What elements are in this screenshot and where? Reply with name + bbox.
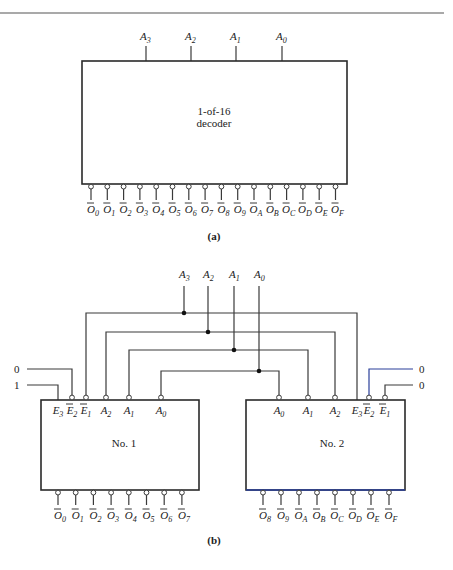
output-label-a-3: O3 xyxy=(136,203,148,218)
pin-label-a0: A0 xyxy=(275,30,287,45)
decoder16-inputs: A3 A2 A1 A0 xyxy=(139,30,287,61)
inversion-bubble xyxy=(333,490,338,495)
inversion-bubble xyxy=(138,184,143,189)
decoder-no1-outputs: O0O1O2O3O4O5O6O7 xyxy=(54,490,191,524)
inversion-bubble xyxy=(333,395,338,400)
output-label-a-12: OC xyxy=(282,203,296,218)
output-label-a-11: OB xyxy=(266,203,279,218)
bus-label-a1: A1 xyxy=(228,268,240,283)
output-label-no2-4: OC xyxy=(330,509,344,524)
inversion-bubble xyxy=(121,184,126,189)
wire-a3-enables xyxy=(86,313,357,400)
inversion-bubble xyxy=(73,490,78,495)
output-label-no1-3: O3 xyxy=(107,509,119,524)
wire-e2bar-no1 xyxy=(27,369,72,397)
decoder16-outputs: O0O1O2O3O4O5O6O7O8O9OAOBOCODOEOF xyxy=(87,184,344,218)
output-label-a-14: OE xyxy=(315,203,328,218)
output-label-no2-7: OF xyxy=(385,509,398,524)
wire-e2bar-no2 xyxy=(369,369,413,397)
inversion-bubble xyxy=(219,184,224,189)
inversion-bubble xyxy=(89,184,94,189)
output-label-no1-2: O2 xyxy=(89,509,101,524)
inversion-bubble xyxy=(56,490,61,495)
figure-a: A3 A2 A1 A0 1-of-16 decoder O0O1O2O3O4O5… xyxy=(82,30,347,243)
output-label-no2-6: OE xyxy=(367,509,380,524)
output-label-no1-1: O1 xyxy=(72,509,84,524)
inversion-bubble xyxy=(126,490,131,495)
inversion-bubble xyxy=(367,395,372,400)
output-label-no1-0: O0 xyxy=(54,509,66,524)
output-label-a-13: OD xyxy=(298,203,312,218)
output-label-no2-2: OA xyxy=(295,509,308,524)
decoder-no2-label: No. 2 xyxy=(320,437,344,449)
pin-label-a2: A2 xyxy=(184,30,196,45)
output-label-a-6: O6 xyxy=(185,203,197,218)
wire-a2 xyxy=(106,332,335,397)
inversion-bubble xyxy=(180,490,185,495)
figure-b: A3 A2 A1 A0 0 1 0 0 No. 1 xyxy=(14,268,425,547)
output-label-no2-0: O8 xyxy=(259,509,271,524)
inversion-bubble xyxy=(277,395,282,400)
output-label-a-4: O4 xyxy=(152,203,164,218)
wire-e3-no1 xyxy=(27,385,58,400)
junction-dot-a0 xyxy=(257,369,262,374)
decoder-diagram: A3 A2 A1 A0 1-of-16 decoder O0O1O2O3O4O5… xyxy=(0,0,453,570)
caption-a: (a) xyxy=(208,230,221,243)
inversion-bubble xyxy=(70,395,75,400)
inversion-bubble xyxy=(109,490,114,495)
output-label-a-15: OF xyxy=(331,203,344,218)
inversion-bubble xyxy=(127,395,132,400)
pin-label-a1: A1 xyxy=(229,30,241,45)
inversion-bubble xyxy=(383,395,388,400)
inversion-bubble xyxy=(369,490,374,495)
inversion-bubble xyxy=(261,490,266,495)
output-label-no1-7: O7 xyxy=(178,509,191,524)
inversion-bubble xyxy=(186,184,191,189)
inversion-bubble xyxy=(252,184,257,189)
inversion-bubble xyxy=(144,490,149,495)
junction-dot-a3 xyxy=(182,311,187,316)
inversion-bubble xyxy=(170,184,175,189)
output-label-no2-3: OB xyxy=(313,509,326,524)
wire-a1 xyxy=(129,350,308,397)
const-e2bar-no1: 0 xyxy=(14,363,20,375)
junction-dot-a1 xyxy=(232,348,237,353)
inversion-bubble xyxy=(315,490,320,495)
output-label-no1-4: O4 xyxy=(125,509,137,524)
output-label-a-8: O8 xyxy=(217,203,229,218)
const-e1bar-no2: 0 xyxy=(419,379,425,391)
pin-label-a3: A3 xyxy=(139,30,151,45)
output-label-no2-1: O9 xyxy=(277,509,289,524)
output-label-a-9: O9 xyxy=(234,203,246,218)
output-label-no1-6: O6 xyxy=(160,509,172,524)
inversion-bubble xyxy=(317,184,322,189)
inversion-bubble xyxy=(333,184,338,189)
const-e2bar-no2: 0 xyxy=(419,363,425,375)
bus-label-a0: A0 xyxy=(253,268,265,283)
inversion-bubble xyxy=(105,184,110,189)
inversion-bubble xyxy=(387,490,392,495)
decoder-title-line1: 1-of-16 xyxy=(198,105,231,117)
inversion-bubble xyxy=(268,184,273,189)
inversion-bubble xyxy=(235,184,240,189)
junction-dot-a2 xyxy=(206,330,211,335)
output-label-a-2: O2 xyxy=(120,203,132,218)
output-label-a-0: O0 xyxy=(87,203,99,218)
bus-label-a2: A2 xyxy=(202,268,214,283)
wire-e1bar-no2 xyxy=(385,385,413,397)
inversion-bubble xyxy=(306,395,311,400)
inversion-bubble xyxy=(154,184,159,189)
inversion-bubble xyxy=(159,395,164,400)
inversion-bubble xyxy=(162,490,167,495)
output-label-no1-5: O5 xyxy=(143,509,155,524)
decoder-no2-outputs: O8O9OAOBOCODOEOF xyxy=(259,490,398,524)
decoder-title-line2: decoder xyxy=(197,117,232,129)
inversion-bubble xyxy=(351,490,356,495)
output-label-a-1: O1 xyxy=(103,203,115,218)
caption-b: (b) xyxy=(207,534,221,547)
bus-label-a3: A3 xyxy=(178,268,190,283)
inversion-bubble xyxy=(279,490,284,495)
output-label-a-10: OA xyxy=(250,203,263,218)
wire-a0 xyxy=(161,371,279,397)
const-e3-no1: 1 xyxy=(14,379,20,391)
